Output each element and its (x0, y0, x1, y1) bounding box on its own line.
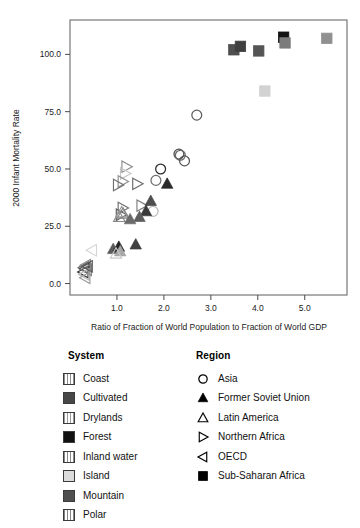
region-legend-label: Sub-Saharan Africa (218, 471, 305, 481)
y-axis-title: 2000 Infant Mortality Rate (11, 109, 21, 207)
system-legend-label: Polar (83, 510, 106, 520)
region-legend: Region AsiaFormer Soviet UnionLatin Amer… (196, 350, 310, 486)
region-marker-triangle-up-icon (196, 391, 210, 405)
system-legend-item[interactable]: Cultivated (63, 389, 137, 409)
region-legend-items: AsiaFormer Soviet UnionLatin AmericaNort… (196, 369, 310, 486)
region-marker-glyph (198, 452, 207, 462)
system-legend: System CoastCultivatedDrylandsForestInla… (63, 350, 137, 525)
system-color-swatch (63, 392, 75, 404)
y-tick-label: 0.0 (49, 279, 61, 289)
system-legend-label: Mountain (83, 491, 124, 501)
region-legend-item[interactable]: Northern Africa (196, 428, 310, 448)
plot-svg: 1.02.03.04.05.00.025.050.075.0100.0 2000… (0, 0, 360, 340)
y-tick-label: 100.0 (40, 49, 62, 59)
region-legend-item[interactable]: OECD (196, 447, 310, 467)
scatter-plot: 1.02.03.04.05.00.025.050.075.0100.0 2000… (0, 0, 360, 340)
data-point (235, 41, 245, 51)
system-legend-item[interactable]: Polar (63, 506, 137, 526)
system-legend-label: Cultivated (83, 393, 127, 403)
system-legend-label: Coast (83, 374, 109, 384)
system-color-swatch (63, 451, 75, 463)
region-marker-circle-icon (196, 372, 210, 386)
data-point (86, 245, 96, 256)
region-legend-item[interactable]: Latin America (196, 408, 310, 428)
data-point (260, 86, 270, 96)
system-legend-label: Drylands (83, 413, 122, 423)
data-point (161, 178, 172, 188)
region-legend-item[interactable]: Former Soviet Union (196, 389, 310, 409)
system-legend-label: Inland water (83, 452, 137, 462)
x-axis-title: Ratio of Fraction of World Population to… (91, 322, 327, 332)
region-marker-glyph (198, 413, 208, 422)
region-legend-label: Asia (218, 374, 237, 384)
data-point (151, 175, 161, 185)
system-color-swatch (63, 431, 75, 443)
data-point (145, 195, 156, 205)
system-legend-label: Island (83, 471, 110, 481)
region-marker-glyph (198, 393, 208, 402)
system-color-swatch (63, 412, 75, 424)
y-tick-label: 75.0 (44, 107, 61, 117)
system-color-swatch (63, 490, 75, 502)
y-tick-label: 25.0 (44, 221, 61, 231)
x-tick-label: 2.0 (158, 303, 170, 313)
region-legend-item[interactable]: Sub-Saharan Africa (196, 467, 310, 487)
region-marker-triangle-up-open-icon (196, 411, 210, 425)
data-point (130, 239, 141, 249)
system-legend-items: CoastCultivatedDrylandsForestInland wate… (63, 369, 137, 525)
x-tick-label: 5.0 (299, 303, 311, 313)
region-marker-glyph (199, 375, 207, 383)
system-legend-item[interactable]: Forest (63, 428, 137, 448)
region-legend-label: Latin America (218, 413, 279, 423)
region-legend-label: OECD (218, 452, 247, 462)
region-legend-label: Former Soviet Union (218, 393, 310, 403)
system-legend-item[interactable]: Drylands (63, 408, 137, 428)
data-point (322, 33, 332, 43)
region-marker-triangle-right-icon (196, 430, 210, 444)
region-legend-item[interactable]: Asia (196, 369, 310, 389)
system-legend-item[interactable]: Coast (63, 369, 137, 389)
x-tick-label: 3.0 (205, 303, 217, 313)
legends: System CoastCultivatedDrylandsForestInla… (0, 350, 360, 528)
region-marker-square-icon (196, 469, 210, 483)
data-points-group (78, 32, 332, 284)
data-point (133, 178, 143, 189)
region-marker-triangle-left-icon (196, 450, 210, 464)
data-point (254, 46, 264, 56)
system-color-swatch (63, 509, 75, 521)
region-marker-glyph (199, 432, 208, 442)
region-marker-glyph (199, 472, 208, 481)
data-point (192, 110, 202, 120)
x-tick-label: 1.0 (111, 303, 123, 313)
x-tick-label: 4.0 (252, 303, 264, 313)
system-legend-title: System (63, 350, 137, 361)
region-legend-label: Northern Africa (218, 432, 285, 442)
system-color-swatch (63, 470, 75, 482)
region-legend-title: Region (196, 350, 310, 361)
data-point (280, 38, 290, 48)
system-color-swatch (63, 373, 75, 385)
data-point (156, 164, 166, 174)
y-tick-label: 50.0 (44, 164, 61, 174)
system-legend-label: Forest (83, 432, 111, 442)
system-legend-item[interactable]: Inland water (63, 447, 137, 467)
figure: 1.02.03.04.05.00.025.050.075.0100.0 2000… (0, 0, 360, 528)
data-point (122, 161, 132, 172)
system-legend-item[interactable]: Island (63, 467, 137, 487)
system-legend-item[interactable]: Mountain (63, 486, 137, 506)
